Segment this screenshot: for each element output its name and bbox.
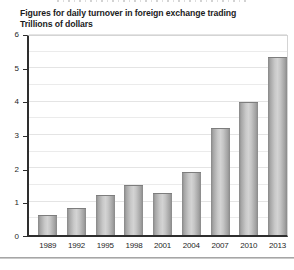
bar-2004 [182, 172, 201, 235]
x-tick-label: 1989 [33, 241, 62, 250]
bar-1998 [124, 185, 143, 235]
cropped-text-remnant [57, 0, 247, 2]
x-tick-label: 2007 [206, 241, 235, 250]
x-tick-label: 1998 [119, 241, 148, 250]
x-tick-label: 2004 [177, 241, 206, 250]
bar-2007 [211, 128, 230, 235]
y-tick-label: 4 [0, 97, 19, 107]
y-tick-label: 0 [0, 232, 19, 242]
page-divider [0, 257, 294, 259]
bar-1989 [38, 215, 57, 235]
bar-1995 [96, 195, 115, 235]
chart-subtitle: Trillions of dollars [20, 19, 282, 30]
x-tick-label: 2013 [263, 241, 292, 250]
gridline [29, 51, 287, 52]
plot-area [27, 35, 288, 237]
x-tick-label: 2001 [148, 241, 177, 250]
bar-2013 [268, 57, 287, 235]
y-tick-label: 3 [0, 131, 19, 141]
bar-2010 [239, 102, 258, 235]
y-tick-label: 5 [0, 64, 19, 74]
x-axis-labels: 198919921995199820012004200720102013 [29, 241, 288, 251]
y-tick-label: 6 [0, 30, 19, 40]
x-tick-label: 1992 [62, 241, 91, 250]
chart-title: Figures for daily turnover in foreign ex… [20, 8, 282, 19]
y-tick-label: 2 [0, 165, 19, 175]
y-axis-labels: 0123456 [0, 35, 23, 237]
gridline [29, 84, 287, 85]
gridline [29, 67, 287, 68]
gridline [29, 34, 287, 35]
x-tick-label: 2010 [234, 241, 263, 250]
bar-1992 [67, 208, 86, 235]
bar-2001 [153, 193, 172, 235]
y-tick-label: 1 [0, 198, 19, 208]
x-tick-label: 1995 [91, 241, 120, 250]
